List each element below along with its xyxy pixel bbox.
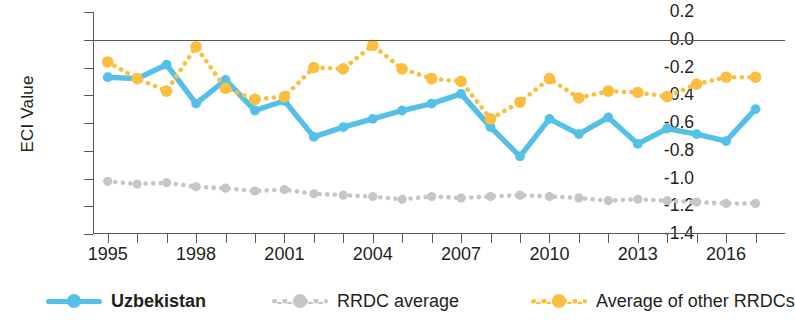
data-point xyxy=(604,196,613,205)
y-tick xyxy=(84,95,93,96)
data-point xyxy=(368,114,378,124)
x-tick xyxy=(137,234,138,243)
data-point xyxy=(574,193,583,202)
data-point xyxy=(367,40,379,52)
data-point xyxy=(692,197,701,206)
data-point xyxy=(486,192,495,201)
data-point xyxy=(103,72,113,82)
legend-marker-icon xyxy=(531,292,587,310)
x-tick xyxy=(491,234,492,243)
data-point xyxy=(221,184,230,193)
data-point xyxy=(573,92,585,104)
x-tick xyxy=(255,234,256,243)
data-point xyxy=(338,122,348,132)
data-point xyxy=(633,139,643,149)
data-point xyxy=(720,71,732,83)
data-point xyxy=(338,63,350,75)
data-point xyxy=(663,196,672,205)
y-tick xyxy=(84,206,93,207)
data-point xyxy=(103,177,112,186)
data-point xyxy=(751,199,760,208)
data-point xyxy=(190,41,202,53)
y-tick xyxy=(84,151,93,152)
x-tick xyxy=(343,234,344,243)
x-tick xyxy=(402,234,403,243)
data-point xyxy=(603,113,613,123)
x-tick-label: 2004 xyxy=(353,244,393,265)
y-tick xyxy=(84,12,93,13)
x-tick-label: 2013 xyxy=(618,244,658,265)
data-point xyxy=(750,71,762,83)
zero-reference-line xyxy=(93,40,785,41)
x-tick-label: 2001 xyxy=(264,244,304,265)
x-tick xyxy=(726,234,727,243)
legend-label: Uzbekistan xyxy=(111,291,206,312)
data-point xyxy=(691,78,703,90)
data-point xyxy=(574,129,584,139)
data-point xyxy=(514,96,526,108)
data-point xyxy=(456,89,466,99)
series-average-of-other-rrdcs xyxy=(102,40,761,125)
data-point xyxy=(162,178,171,187)
data-point xyxy=(191,182,200,191)
x-tick xyxy=(226,234,227,243)
x-tick xyxy=(638,234,639,243)
legend-item-average-of-other-rrdcs[interactable]: Average of other RRDCs xyxy=(531,291,795,312)
data-point xyxy=(427,192,436,201)
data-point xyxy=(545,192,554,201)
x-tick-label: 1998 xyxy=(176,244,216,265)
data-point xyxy=(722,199,731,208)
data-point xyxy=(544,73,556,85)
data-point xyxy=(102,56,114,68)
x-tick xyxy=(167,234,168,243)
data-point xyxy=(455,76,467,88)
legend-marker-icon xyxy=(272,292,328,310)
y-tick xyxy=(84,234,93,235)
data-point xyxy=(250,186,259,195)
data-point xyxy=(721,136,731,146)
data-point xyxy=(162,60,172,70)
data-point xyxy=(456,193,465,202)
data-point xyxy=(545,114,555,124)
data-point xyxy=(280,185,289,194)
x-tick xyxy=(284,234,285,243)
x-tick-label: 1995 xyxy=(88,244,128,265)
x-tick xyxy=(579,234,580,243)
data-point xyxy=(309,189,318,198)
data-point xyxy=(397,106,407,116)
legend-marker-icon xyxy=(46,292,102,310)
x-tick-label: 2007 xyxy=(441,244,481,265)
y-tick xyxy=(84,40,93,41)
data-point xyxy=(515,151,525,161)
data-point xyxy=(191,99,201,109)
data-point xyxy=(131,73,143,85)
series-rrdc-average xyxy=(103,177,760,208)
legend-item-uzbekistan[interactable]: Uzbekistan xyxy=(46,291,206,312)
data-point xyxy=(632,87,644,99)
data-point xyxy=(133,179,142,188)
legend-item-rrdc-average[interactable]: RRDC average xyxy=(272,291,459,312)
legend-label: RRDC average xyxy=(337,291,459,312)
data-point xyxy=(426,73,438,85)
data-point xyxy=(485,113,497,125)
data-point xyxy=(603,85,615,97)
x-tick xyxy=(432,234,433,243)
data-point xyxy=(692,129,702,139)
y-tick xyxy=(84,123,93,124)
data-point xyxy=(308,62,320,74)
y-tick xyxy=(84,68,93,69)
data-point xyxy=(661,91,673,103)
data-point xyxy=(249,94,261,106)
data-point xyxy=(279,91,291,103)
data-point xyxy=(250,106,260,116)
x-tick xyxy=(520,234,521,243)
y-axis-title: ECI Value xyxy=(18,24,38,204)
x-tick xyxy=(697,234,698,243)
x-tick xyxy=(667,234,668,243)
x-tick xyxy=(461,234,462,243)
data-point xyxy=(633,195,642,204)
data-point xyxy=(515,191,524,200)
x-tick xyxy=(373,234,374,243)
x-tick xyxy=(108,234,109,243)
data-point xyxy=(398,195,407,204)
